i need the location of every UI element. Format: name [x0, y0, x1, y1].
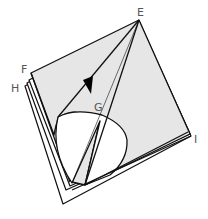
label-I: I — [194, 133, 197, 146]
label-G: G — [94, 101, 103, 114]
folding-diagram: E F H G I — [0, 0, 208, 219]
label-F: F — [21, 63, 27, 76]
label-H: H — [11, 82, 19, 95]
label-E: E — [137, 6, 144, 19]
